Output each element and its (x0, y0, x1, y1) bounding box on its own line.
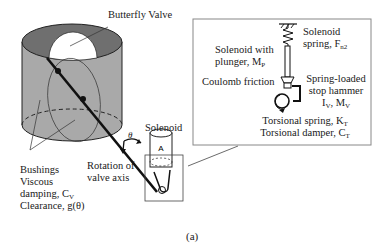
label-viscous: Viscous (20, 176, 53, 188)
label-clearance: Clearance, g(θ) (20, 200, 85, 212)
label-solenoid-spring-2: spring, Fn2 (303, 38, 347, 50)
label-butterfly-valve: Butterfly Valve (108, 9, 172, 21)
label-hammer-1: Spring-loaded (300, 73, 372, 85)
label-coulomb-friction: Coulomb friction (202, 76, 275, 88)
bushing-dot (80, 96, 86, 102)
figure-caption: (a) (186, 230, 198, 242)
bushing-dot (55, 68, 61, 74)
label-solenoid: Solenoid (145, 122, 182, 134)
label-hammer-2: stop hammer (300, 85, 372, 97)
svg-text:A: A (158, 144, 164, 153)
label-bushings: Bushings (20, 164, 59, 176)
label-torsional-damper: Torsional damper, CT (240, 127, 370, 139)
label-rotation-2: valve axis (87, 172, 129, 184)
label-torsional-spring: Torsional spring, KT (240, 115, 370, 127)
label-theta: θ (128, 129, 132, 141)
label-damping: damping, CV (20, 188, 74, 200)
label-hammer-3: IV, MV (300, 97, 372, 109)
label-solenoid-spring-1: Solenoid (303, 26, 340, 38)
label-plunger-2: plunger, MP (215, 56, 265, 68)
label-plunger-1: Solenoid with (215, 44, 274, 56)
label-rotation-1: Rotation of (87, 160, 135, 172)
